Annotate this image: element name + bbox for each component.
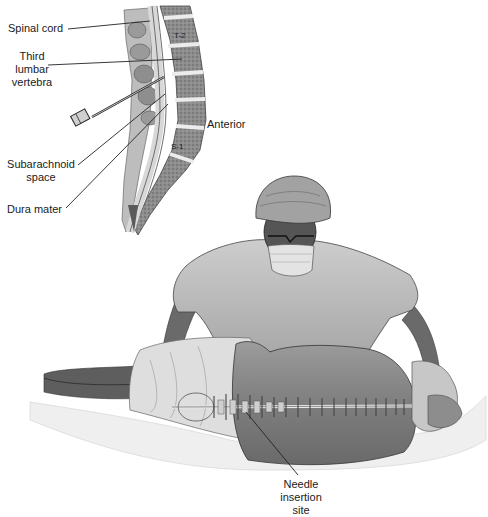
spine-section: T-2 S-1 bbox=[48, 6, 206, 235]
spinal-cord-label: Spinal cord bbox=[8, 22, 63, 35]
t2-vertebra-label: T-2 bbox=[174, 31, 186, 40]
lumbar-puncture-diagram: T-2 S-1 bbox=[0, 0, 488, 517]
s1-vertebra-label: S-1 bbox=[171, 142, 184, 151]
subarachnoid-space-label: Subarachnoid space bbox=[6, 158, 76, 184]
third-lumbar-vertebra-label: Third lumbar vertebra bbox=[10, 50, 54, 89]
illustration: T-2 S-1 bbox=[0, 0, 488, 517]
dura-mater-label: Dura mater bbox=[7, 203, 62, 216]
needle-insertion-site-label: Needle insertion site bbox=[276, 478, 326, 517]
anterior-label: Anterior bbox=[207, 118, 246, 131]
